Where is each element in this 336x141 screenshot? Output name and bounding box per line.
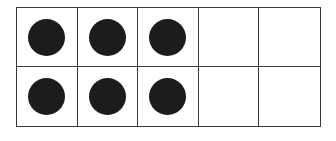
frame-cell [259, 8, 320, 67]
frame-cell [17, 67, 78, 126]
frame-cell [17, 8, 78, 67]
frame-cell [259, 67, 320, 126]
frame-cell [78, 8, 139, 67]
frame-cell [138, 67, 199, 126]
frame-cell [138, 8, 199, 67]
frame-cell [199, 8, 260, 67]
counter-dot [89, 19, 126, 56]
frame-cell [78, 67, 139, 126]
counter-dot [149, 19, 186, 56]
counter-dot [149, 78, 186, 115]
frame-cell [199, 67, 260, 126]
counter-dot [89, 78, 126, 115]
counter-dot [28, 19, 65, 56]
counter-dot [28, 78, 65, 115]
ten-frame [16, 7, 321, 127]
